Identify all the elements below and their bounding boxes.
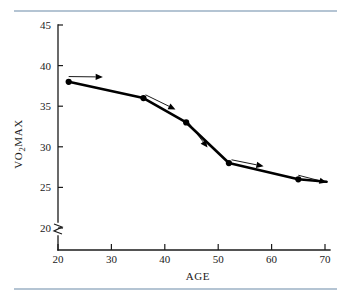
x-axis-label: AGE	[186, 270, 210, 282]
data-point-marker	[226, 160, 232, 166]
y-tick-label: 20	[40, 222, 52, 234]
y-tick-label: 25	[40, 181, 52, 193]
x-tick-label: 30	[106, 253, 118, 265]
y-axis-label-pre: VO	[12, 152, 24, 169]
x-tick-label: 60	[266, 253, 278, 265]
data-point-marker	[295, 176, 301, 182]
y-axis-label-post: MAX	[12, 119, 24, 146]
x-tick-label: 50	[213, 253, 225, 265]
data-point-marker	[140, 95, 146, 101]
figure-container: 202530354045 203040506070 VO2MAX AGE	[0, 0, 351, 300]
y-tick-label: 30	[40, 141, 52, 153]
x-tick-label: 70	[320, 253, 332, 265]
x-tick-label: 20	[53, 253, 65, 265]
vo2max-age-chart: 202530354045 203040506070 VO2MAX AGE	[0, 0, 351, 300]
y-tick-label: 45	[40, 19, 52, 31]
y-tick-label: 40	[40, 60, 52, 72]
x-tick-label: 40	[159, 253, 171, 265]
data-point-marker	[66, 79, 72, 85]
y-tick-label: 35	[40, 100, 52, 112]
